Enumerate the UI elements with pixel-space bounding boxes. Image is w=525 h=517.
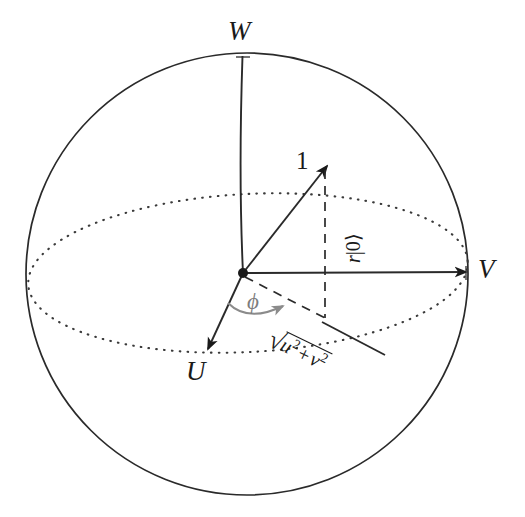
vertical-component-ket: |0⟩	[342, 233, 364, 255]
azimuthal-angle-label: ϕ	[247, 290, 259, 313]
origin-point	[238, 268, 248, 278]
u-axis-label: U	[186, 358, 206, 385]
vertical-component-prefix: r	[342, 255, 364, 263]
w-axis-label: W	[228, 18, 251, 45]
bloch-sphere-figure: W V U 1 ϕ r|0⟩ √u2+v2	[0, 0, 525, 517]
state-vector-arrow	[243, 166, 327, 273]
vertical-component-label: r|0⟩	[343, 233, 363, 263]
state-vector-label: 1	[296, 148, 309, 173]
radial-measure-line	[322, 322, 385, 355]
v-axis-line	[243, 272, 466, 273]
bloch-sphere-canvas	[0, 0, 525, 517]
v-axis-label: V	[478, 256, 495, 283]
w-axis-line	[241, 56, 243, 273]
